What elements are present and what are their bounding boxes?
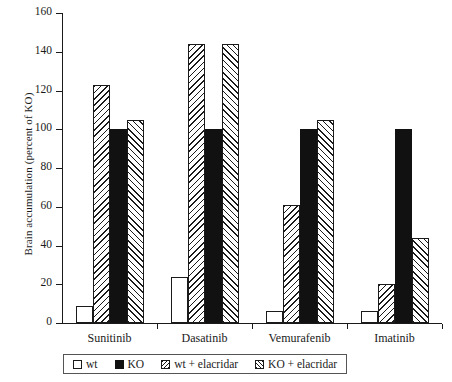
bar-wt [266,311,283,323]
x-axis-tick [157,324,158,329]
legend-swatch-icon [255,360,264,369]
x-axis-group-label: Vemurafenib [269,331,331,346]
y-axis-tick: 60 [56,207,62,208]
plot-area: 020406080100120140160 SunitinibDasatinib… [62,13,442,323]
y-axis-tick-label: 100 [35,121,52,133]
y-axis-line [62,13,63,324]
legend-swatch-icon [161,360,170,369]
bar-wt-elacridar [378,284,395,323]
legend-label: KO [128,358,145,370]
y-axis-tick-label: 60 [41,199,53,211]
y-axis-tick: 140 [56,52,62,53]
y-axis-tick-label: 160 [35,5,52,17]
x-axis-group-label: Dasatinib [182,331,228,346]
y-axis-tick: 100 [56,129,62,130]
bar-wt-elacridar [283,205,300,323]
legend-label: wt + elacridar [174,358,238,370]
y-axis-tick: 40 [56,246,62,247]
y-axis-tick: 120 [56,91,62,92]
bar-ko [395,129,412,323]
x-axis-tick [252,324,253,329]
bar-ko [110,129,127,323]
x-axis-tick [442,324,443,329]
bar-ko-elacridar [412,238,429,323]
bar-ko-elacridar [127,120,144,323]
bar-ko [205,129,222,323]
legend-label: KO + elacridar [268,358,337,370]
y-axis-tick: 20 [56,284,62,285]
bar-wt [171,277,188,324]
y-axis-title: Brain accumulation (percent of KO) [22,49,34,299]
y-axis-tick-label: 120 [35,83,52,95]
y-axis-tick-label: 20 [41,276,53,288]
bar-chart-figure: Brain accumulation (percent of KO) 02040… [0,0,452,382]
x-axis-group-label: Sunitinib [87,331,131,346]
bar-wt [76,306,93,323]
bar-wt [361,311,378,323]
legend-swatch-icon [73,360,82,369]
legend-swatch-icon [115,360,124,369]
y-axis-tick: 80 [56,168,62,169]
legend-item: KO + elacridar [255,358,337,370]
legend-item: KO [115,358,145,370]
y-axis-tick: 160 [56,13,62,14]
bar-wt-elacridar [188,44,205,323]
y-axis-tick-label: 40 [41,238,53,250]
y-axis-tick-label: 0 [46,315,52,327]
bar-ko-elacridar [222,44,239,323]
y-axis-tick-label: 140 [35,44,52,56]
y-axis-tick-label: 80 [41,160,53,172]
legend-label: wt [86,358,98,370]
bar-ko-elacridar [317,120,334,323]
y-axis-tick: 0 [56,323,62,324]
legend-item: wt + elacridar [161,358,238,370]
bar-wt-elacridar [93,85,110,323]
chart-legend: wtKOwt + elacridarKO + elacridar [63,354,347,374]
bar-ko [300,129,317,323]
x-axis-tick [347,324,348,329]
x-axis-group-label: Imatinib [374,331,415,346]
legend-item: wt [73,358,98,370]
